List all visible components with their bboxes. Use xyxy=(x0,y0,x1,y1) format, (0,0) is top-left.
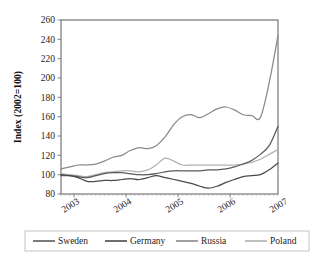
chart-figure: Index (2002=100) 80100120140160180200220… xyxy=(0,0,323,260)
legend-label-poland: Poland xyxy=(270,236,297,246)
y-tick-label-180: 180 xyxy=(41,93,56,103)
y-tick-label-100: 100 xyxy=(41,170,56,180)
line-chart: Index (2002=100) 80100120140160180200220… xyxy=(0,0,323,260)
y-tick-label-220: 220 xyxy=(41,54,56,64)
chart-legend: SwedenGermanyRussiaPoland xyxy=(25,231,309,251)
y-axis-title: Index (2002=100) xyxy=(13,71,24,143)
y-tick-label-260: 260 xyxy=(41,15,56,25)
legend-label-sweden: Sweden xyxy=(58,236,88,246)
y-tick-label-200: 200 xyxy=(41,73,56,83)
plot-area-frame xyxy=(61,20,278,194)
legend-label-russia: Russia xyxy=(201,236,227,246)
legend-label-germany: Germany xyxy=(130,236,166,246)
y-tick-label-120: 120 xyxy=(41,151,56,161)
y-tick-label-80: 80 xyxy=(46,189,56,199)
y-tick-label-240: 240 xyxy=(41,35,56,45)
y-tick-label-140: 140 xyxy=(41,131,56,141)
y-tick-label-160: 160 xyxy=(41,112,56,122)
